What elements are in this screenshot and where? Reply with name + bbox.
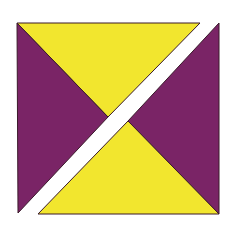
figure-canvas <box>0 0 239 231</box>
square-diagram <box>0 0 239 231</box>
